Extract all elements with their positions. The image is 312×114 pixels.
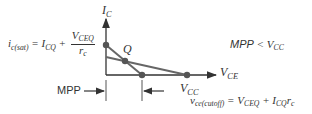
saturation-equation: ic(sat) = ICQ + VCEQ rc bbox=[8, 30, 95, 60]
q-point bbox=[122, 58, 128, 64]
mpp-relation: MPP < VCC bbox=[230, 38, 284, 52]
cutoff-equation: vce(cutoff) = VCEQ + ICQrc bbox=[190, 94, 294, 108]
dc-load-line bbox=[106, 57, 187, 75]
fraction: VCEQ rc bbox=[71, 30, 95, 60]
mpp-label: MPP bbox=[57, 84, 81, 96]
saturation-point bbox=[103, 42, 109, 48]
vcc-point bbox=[184, 72, 190, 78]
x-axis-label: VCE bbox=[220, 65, 238, 81]
cutoff-point bbox=[139, 72, 145, 78]
q-point-label: Q bbox=[123, 42, 132, 57]
y-axis-label: IC bbox=[102, 3, 112, 19]
